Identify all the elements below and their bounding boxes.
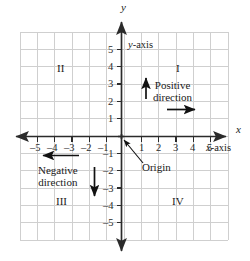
y-tick-label: 2 [108, 97, 113, 108]
negative-direction-annotation: Negative direction [38, 164, 78, 189]
quadrant-label-iv: IV [172, 196, 184, 207]
positive-direction-annotation: Positive direction [153, 79, 192, 104]
x-tick-label: –2 [81, 143, 92, 154]
y-tick-label: 3 [108, 79, 113, 90]
x-tick-label: –4 [47, 143, 58, 154]
positive-direction-line-2: direction [153, 91, 192, 103]
y-tick-label: –1 [103, 149, 114, 160]
positive-direction-line-1: Positive [153, 79, 192, 91]
y-axis-label-rest: -axis [133, 39, 153, 50]
y-tick-label: –2 [103, 166, 114, 177]
x-tick-label: –3 [64, 143, 75, 154]
y-tick-label: –3 [103, 184, 114, 195]
x-tick-label: 1 [139, 143, 144, 154]
negative-direction-line-1: Negative [38, 164, 78, 176]
x-tick-label: 3 [173, 143, 178, 154]
x-tick-label: 4 [190, 143, 195, 154]
x-tick-label: 5 [207, 143, 212, 154]
quadrant-label-iii: III [56, 196, 67, 207]
negative-direction-line-2: direction [38, 176, 78, 188]
x-axis-label-rest: -axis [211, 142, 231, 153]
x-axis-name: x [236, 124, 241, 135]
origin-label: Origin [142, 162, 171, 173]
quadrant-label-i: I [176, 63, 180, 74]
x-tick-label: 2 [156, 143, 161, 154]
y-tick-label: –4 [103, 201, 114, 212]
figure-canvas [0, 0, 250, 261]
coordinate-plane-figure: y x y-axis x-axis –5 –4 –3 –2 –1 1 2 3 4… [0, 0, 250, 261]
x-tick-label: –5 [30, 143, 41, 154]
y-axis-name: y [121, 2, 126, 13]
y-tick-label: 4 [108, 62, 113, 73]
y-tick-label: –5 [103, 218, 114, 229]
y-axis-label: y-axis [128, 40, 153, 51]
axis-lines [16, 22, 226, 251]
y-tick-label: 1 [108, 114, 113, 125]
y-tick-label: 5 [108, 45, 113, 56]
quadrant-label-ii: II [57, 63, 64, 74]
